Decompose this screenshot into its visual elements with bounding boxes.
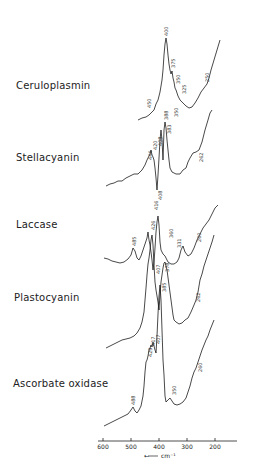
svg-text:488: 488 [130, 395, 136, 405]
svg-text:408: 408 [157, 136, 163, 146]
svg-text:400: 400 [163, 26, 169, 36]
svg-text:260: 260 [196, 232, 202, 242]
svg-text:262: 262 [198, 152, 204, 162]
x-axis-label: ← cm⁻¹ [144, 452, 176, 459]
svg-text:350: 350 [175, 74, 181, 84]
x-tick-500: 500 [125, 443, 137, 450]
svg-text:416: 416 [153, 200, 159, 210]
svg-text:426: 426 [150, 220, 156, 230]
svg-text:331: 331 [176, 238, 182, 248]
x-tick-400: 400 [153, 443, 165, 450]
svg-text:385: 385 [161, 282, 167, 292]
svg-text:407: 407 [155, 264, 161, 274]
svg-text:325: 325 [181, 84, 187, 94]
svg-text:250: 250 [204, 72, 210, 82]
peak-labels-plastocyanin: 407 378 385 262 [155, 262, 201, 302]
peak-labels-laccase: 485 426 416 408 360 331 260 [131, 190, 202, 248]
x-tick-300: 300 [181, 443, 193, 450]
svg-text:260: 260 [197, 362, 203, 372]
svg-text:383: 383 [166, 124, 172, 134]
peak-labels-ascorbate-oxidase: 488 429 417 407 350 260 [130, 334, 203, 405]
svg-text:444: 444 [147, 150, 153, 160]
svg-text:450: 450 [146, 98, 152, 108]
x-tick-200: 200 [209, 443, 221, 450]
spectra-plot: 450 400 375 350 325 250 444 420 408 388 … [0, 0, 255, 468]
svg-text:429: 429 [147, 347, 153, 357]
direction-arrow-icon: ← [144, 452, 149, 459]
svg-text:485: 485 [131, 236, 137, 246]
svg-text:378: 378 [164, 262, 170, 272]
svg-text:407: 407 [155, 334, 161, 344]
svg-text:350: 350 [173, 107, 179, 117]
svg-text:350: 350 [171, 385, 177, 395]
svg-text:375: 375 [170, 58, 176, 68]
trace-stellacyanin [106, 110, 212, 190]
svg-text:360: 360 [168, 228, 174, 238]
trace-plastocyanin [106, 235, 214, 348]
x-tick-600: 600 [97, 443, 109, 450]
svg-text:408: 408 [157, 190, 163, 200]
svg-text:262: 262 [195, 292, 201, 302]
svg-text:388: 388 [163, 110, 169, 120]
peak-labels-stellacyanin: 444 420 408 388 383 350 262 [147, 107, 204, 162]
x-axis-unit: cm⁻¹ [161, 452, 176, 459]
x-axis: 600 500 400 300 200 [97, 438, 237, 450]
